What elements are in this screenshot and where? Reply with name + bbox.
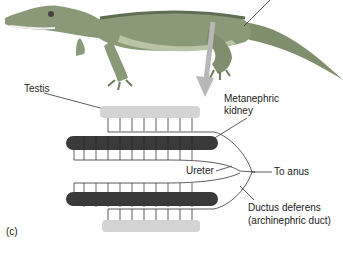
testis-leader — [44, 93, 108, 110]
kidney-top — [66, 136, 218, 150]
label-ductus-2: (archinephric duct) — [248, 215, 331, 227]
kidney-bottom — [66, 192, 218, 206]
label-kidney-1: Metanephric — [224, 93, 279, 105]
label-testis: Testis — [24, 83, 50, 95]
label-panel: (c) — [6, 226, 18, 238]
label-kidney-2: kidney — [224, 105, 253, 117]
label-to-anus: To anus — [274, 166, 309, 178]
alligator-illustration — [5, 0, 343, 90]
testis-bottom — [102, 220, 200, 232]
label-ductus-1: Ductus deferens — [248, 202, 321, 214]
kidney-leader — [213, 118, 247, 139]
label-ureter: Ureter — [186, 165, 214, 177]
testis-top — [100, 106, 200, 118]
